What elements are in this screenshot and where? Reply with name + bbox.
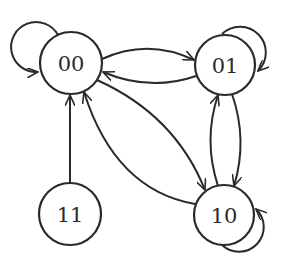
state-diagram: 00 01 11 10 (0, 0, 289, 274)
state-label-11: 11 (57, 203, 84, 227)
edge-01-to-10 (232, 94, 241, 186)
state-label-00: 00 (58, 52, 85, 76)
state-node-11: 11 (39, 183, 101, 245)
state-label-01: 01 (212, 54, 239, 78)
edge-01-to-00 (103, 72, 196, 83)
edge-00-to-01 (102, 49, 194, 60)
edge-10-to-00 (84, 92, 195, 204)
state-node-01: 01 (195, 35, 255, 95)
state-label-10: 10 (211, 204, 238, 228)
state-node-00: 00 (40, 32, 102, 94)
state-node-10: 10 (194, 185, 254, 245)
edge-10-to-01 (211, 95, 219, 186)
edge-00-to-10 (97, 80, 205, 190)
